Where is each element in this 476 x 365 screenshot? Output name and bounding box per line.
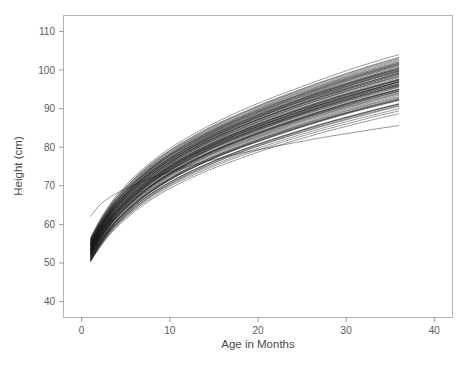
y-tick-label: 40 — [44, 296, 56, 307]
y-axis-label: Height (cm) — [12, 136, 24, 196]
x-tick-label: 40 — [429, 325, 441, 336]
y-tick-label: 110 — [39, 26, 55, 37]
y-tick-label: 50 — [44, 257, 56, 268]
y-tick-label: 90 — [44, 103, 56, 114]
growth-curves-chart: 010203040 405060708090100110 Age in Mont… — [0, 0, 476, 365]
x-tick-label: 20 — [252, 325, 264, 336]
x-axis-label: Age in Months — [221, 338, 295, 350]
y-tick-label: 70 — [44, 180, 56, 191]
y-tick-label: 100 — [38, 65, 55, 76]
x-tick-label: 0 — [79, 325, 85, 336]
x-tick-label: 10 — [164, 325, 176, 336]
y-tick-label: 60 — [44, 219, 56, 230]
x-tick-label: 30 — [341, 325, 353, 336]
y-tick-label: 80 — [44, 142, 56, 153]
chart-page: 010203040 405060708090100110 Age in Mont… — [0, 0, 476, 365]
